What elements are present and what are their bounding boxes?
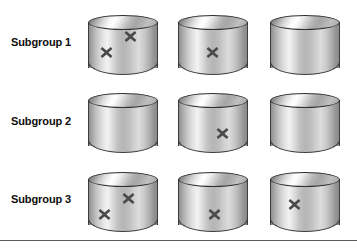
cylinder-top-ellipse [88,172,158,187]
cylinder-bottom-edge [270,133,340,153]
cylinder-bottom-edge [178,212,248,232]
cylinder-r2-c2 [178,93,248,153]
cylinder-top-ellipse [178,15,248,30]
row-label-subgroup-2: Subgroup 2 [11,115,83,127]
cylinder-top-ellipse [270,172,340,187]
cylinder-r1-c2 [178,15,248,75]
cylinder-bottom-edge [88,133,158,153]
cylinder-r1-c1 [88,15,158,75]
cylinder-r3-c2 [178,172,248,232]
cylinder-top-ellipse [178,93,248,108]
cylinder-bottom-edge [88,212,158,232]
row-label-subgroup-1: Subgroup 1 [11,36,83,48]
row-label-subgroup-3: Subgroup 3 [11,193,83,205]
cylinder-r3-c1 [88,172,158,232]
cylinder-bottom-edge [178,55,248,75]
cylinder-r1-c3 [270,15,340,75]
cylinder-top-ellipse [270,93,340,108]
bottom-divider [0,240,357,241]
cylinder-bottom-edge [178,133,248,153]
cylinder-r2-c1 [88,93,158,153]
cylinder-top-ellipse [88,15,158,30]
subgroup-cylinder-figure: Subgroup 1Subgroup 2Subgroup 3 [0,0,357,251]
cylinder-top-ellipse [270,15,340,30]
cylinder-bottom-edge [270,212,340,232]
cylinder-r2-c3 [270,93,340,153]
cylinder-r3-c3 [270,172,340,232]
cylinder-top-ellipse [178,172,248,187]
cylinder-bottom-edge [88,55,158,75]
cylinder-bottom-edge [270,55,340,75]
cylinder-top-ellipse [88,93,158,108]
